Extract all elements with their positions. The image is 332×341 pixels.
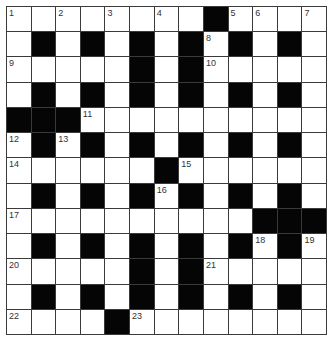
crossword-cell[interactable] [105,234,129,258]
crossword-cell[interactable] [155,209,179,233]
crossword-cell[interactable] [253,57,277,81]
crossword-cell[interactable] [56,184,80,208]
crossword-cell[interactable]: 19 [302,234,326,258]
crossword-cell[interactable] [302,108,326,132]
crossword-cell[interactable] [278,57,302,81]
crossword-cell[interactable] [302,285,326,309]
crossword-cell[interactable]: 2 [56,7,80,31]
crossword-cell[interactable] [56,57,80,81]
crossword-cell[interactable] [229,310,253,334]
crossword-cell[interactable] [302,133,326,157]
crossword-cell[interactable] [81,209,105,233]
crossword-cell[interactable] [155,285,179,309]
crossword-cell[interactable] [278,259,302,283]
crossword-cell[interactable] [278,108,302,132]
crossword-cell[interactable] [56,310,80,334]
crossword-cell[interactable]: 7 [302,7,326,31]
crossword-cell[interactable] [278,7,302,31]
crossword-cell[interactable] [7,83,31,107]
crossword-cell[interactable]: 17 [7,209,31,233]
crossword-cell[interactable] [56,259,80,283]
crossword-cell[interactable]: 9 [7,57,31,81]
crossword-cell[interactable] [105,184,129,208]
crossword-cell[interactable] [155,310,179,334]
crossword-cell[interactable] [81,310,105,334]
crossword-cell[interactable] [130,158,154,182]
crossword-cell[interactable]: 20 [7,259,31,283]
crossword-cell[interactable] [302,310,326,334]
crossword-cell[interactable]: 11 [81,108,105,132]
crossword-cell[interactable] [302,259,326,283]
crossword-cell[interactable]: 14 [7,158,31,182]
crossword-cell[interactable] [302,83,326,107]
crossword-cell[interactable]: 16 [155,184,179,208]
crossword-cell[interactable] [105,285,129,309]
crossword-cell[interactable] [278,310,302,334]
crossword-cell[interactable] [253,32,277,56]
crossword-cell[interactable]: 4 [155,7,179,31]
crossword-cell[interactable] [253,184,277,208]
crossword-cell[interactable] [105,57,129,81]
crossword-cell[interactable] [105,158,129,182]
crossword-cell[interactable] [155,259,179,283]
crossword-cell[interactable] [179,7,203,31]
crossword-cell[interactable] [204,234,228,258]
crossword-cell[interactable] [253,310,277,334]
crossword-cell[interactable] [56,158,80,182]
crossword-cell[interactable] [105,259,129,283]
crossword-cell[interactable] [278,158,302,182]
crossword-cell[interactable] [155,234,179,258]
crossword-cell[interactable]: 8 [204,32,228,56]
crossword-cell[interactable] [204,158,228,182]
crossword-cell[interactable] [130,108,154,132]
crossword-cell[interactable] [32,158,56,182]
crossword-cell[interactable] [302,32,326,56]
crossword-cell[interactable] [179,108,203,132]
crossword-cell[interactable] [155,108,179,132]
crossword-cell[interactable] [155,133,179,157]
crossword-cell[interactable] [253,259,277,283]
crossword-cell[interactable] [105,133,129,157]
crossword-cell[interactable] [105,108,129,132]
crossword-cell[interactable]: 18 [253,234,277,258]
crossword-cell[interactable]: 1 [7,7,31,31]
crossword-cell[interactable] [105,83,129,107]
crossword-cell[interactable] [81,7,105,31]
crossword-cell[interactable] [204,83,228,107]
crossword-cell[interactable] [229,57,253,81]
crossword-cell[interactable] [302,184,326,208]
crossword-cell[interactable] [56,285,80,309]
crossword-cell[interactable] [105,209,129,233]
crossword-cell[interactable] [229,158,253,182]
crossword-cell[interactable]: 10 [204,57,228,81]
crossword-cell[interactable]: 13 [56,133,80,157]
crossword-cell[interactable] [229,259,253,283]
crossword-cell[interactable] [204,184,228,208]
crossword-cell[interactable] [130,7,154,31]
crossword-cell[interactable]: 5 [229,7,253,31]
crossword-cell[interactable] [32,7,56,31]
crossword-cell[interactable]: 15 [179,158,203,182]
crossword-cell[interactable] [7,285,31,309]
crossword-cell[interactable] [56,209,80,233]
crossword-cell[interactable] [302,158,326,182]
crossword-cell[interactable] [32,57,56,81]
crossword-cell[interactable] [253,83,277,107]
crossword-cell[interactable] [32,209,56,233]
crossword-cell[interactable] [204,209,228,233]
crossword-cell[interactable] [7,184,31,208]
crossword-cell[interactable] [155,57,179,81]
crossword-cell[interactable] [32,259,56,283]
crossword-cell[interactable]: 6 [253,7,277,31]
crossword-cell[interactable] [229,209,253,233]
crossword-cell[interactable]: 22 [7,310,31,334]
crossword-cell[interactable] [155,32,179,56]
crossword-cell[interactable] [204,310,228,334]
crossword-cell[interactable] [7,234,31,258]
crossword-cell[interactable] [204,133,228,157]
crossword-cell[interactable]: 12 [7,133,31,157]
crossword-cell[interactable] [302,57,326,81]
crossword-cell[interactable] [204,108,228,132]
crossword-cell[interactable] [81,158,105,182]
crossword-cell[interactable] [253,133,277,157]
